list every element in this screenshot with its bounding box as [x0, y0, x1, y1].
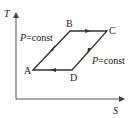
arrow-b-to-c-icon [85, 29, 91, 33]
x-axis-label: S [113, 106, 118, 116]
const-text: =const [98, 55, 125, 66]
point-a-label: A [24, 66, 31, 76]
point-c-label: C [109, 26, 116, 36]
point-b-label: B [66, 19, 73, 29]
right-process-label: P=const [92, 56, 125, 66]
y-axis-label: T [4, 9, 10, 19]
left-process-label: P=const [20, 33, 53, 43]
arrow-d-to-a-icon [50, 68, 56, 72]
point-d-label: D [70, 73, 77, 83]
const-text: =const [26, 32, 53, 43]
